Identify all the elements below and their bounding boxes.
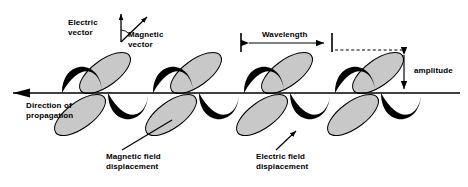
wavelength-label: Wavelength <box>262 30 308 40</box>
direction-of-propagation-label: Direction of propagation <box>26 101 73 120</box>
magnetic-field-displacement-label: Magnetic field displacement <box>106 152 161 171</box>
magnetic-vector-label: Magnetic vector <box>128 30 163 49</box>
electric-field-displacement-label: Electric field displacement <box>256 152 308 171</box>
amplitude-label: amplitude <box>414 66 453 76</box>
propagation-arrow-icon <box>13 89 30 98</box>
em-wave-diagram: Electric vector Magnetic vector Waveleng… <box>0 0 468 187</box>
electric-leader-arrow-icon <box>276 131 296 150</box>
electric-vector-label: Electric vector <box>68 18 98 37</box>
magnetic-field-wave <box>48 45 410 143</box>
